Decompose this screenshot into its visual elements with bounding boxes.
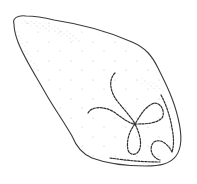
- drawing-canvas: [0, 0, 197, 184]
- illustration: [0, 0, 197, 184]
- body-outline: [14, 16, 181, 166]
